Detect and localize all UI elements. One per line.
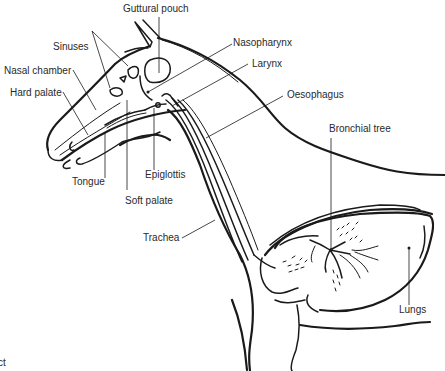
label-epiglottis: Epiglottis [145,169,186,180]
label-sinuses: Sinuses [53,41,89,52]
label-trachea: Trachea [143,232,180,243]
lungs-shape [260,205,433,312]
label-guttural-pouch: Guttural pouch [123,3,189,14]
label-oesophagus: Oesophagus [287,89,344,100]
label-tongue: Tongue [72,176,105,187]
label-soft-palate: Soft palate [125,195,173,206]
label-larynx: Larynx [252,58,282,69]
horse-outline [47,20,445,371]
caption-fragment: ct [0,357,6,368]
sinuses-shapes [110,67,138,97]
label-bronchial-tree: Bronchial tree [329,123,391,134]
label-nasopharynx: Nasopharynx [233,37,292,48]
guttural-pouch-shape [145,58,171,82]
respiratory-tract-diagram: Guttural pouch Sinuses Nasal chamber Har… [0,0,445,371]
label-hard-palate: Hard palate [10,87,62,98]
label-nasal-chamber: Nasal chamber [4,65,72,76]
label-lungs: Lungs [399,304,426,315]
